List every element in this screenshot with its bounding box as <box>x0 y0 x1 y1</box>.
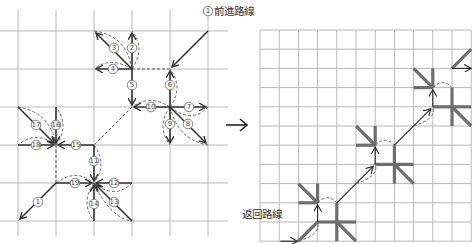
badge-8: 8 <box>183 119 193 129</box>
svg-text:2: 2 <box>130 44 134 52</box>
badge-7: 7 <box>184 102 194 112</box>
badge-9: 9 <box>165 119 175 129</box>
svg-text:14: 14 <box>90 200 99 208</box>
svg-text:10: 10 <box>147 103 156 111</box>
diagram-canvas: 1 2 3 4 5 6 7 8 9 10 11 12 13 14 15 16 1… <box>0 0 475 244</box>
svg-text:17: 17 <box>32 121 41 129</box>
badge-11: 11 <box>89 156 99 166</box>
return-route-label: 返回路線 <box>242 208 283 220</box>
badge-4: 4 <box>108 64 118 74</box>
badge-15: 15 <box>71 140 81 150</box>
badge-10: 10 <box>146 102 156 112</box>
svg-text:7: 7 <box>187 103 191 111</box>
svg-text:9: 9 <box>168 120 172 128</box>
svg-text:15: 15 <box>72 141 81 149</box>
svg-text:16: 16 <box>52 121 61 129</box>
svg-text:19: 19 <box>71 179 80 187</box>
badge-6: 6 <box>165 80 175 90</box>
svg-text:8: 8 <box>186 120 190 128</box>
badge-16: 16 <box>51 120 61 130</box>
svg-text:6: 6 <box>168 81 173 89</box>
badge-17: 17 <box>31 120 41 130</box>
svg-text:13: 13 <box>110 198 119 206</box>
badge-19: 19 <box>70 178 80 188</box>
svg-text:12: 12 <box>110 179 119 187</box>
right-return-route <box>280 68 471 241</box>
svg-text:4: 4 <box>111 65 116 73</box>
forward-route-label: 前進路線 <box>214 5 255 17</box>
step-1-arrow <box>172 31 208 67</box>
badge-12: 12 <box>109 178 119 188</box>
svg-text:1: 1 <box>36 198 40 206</box>
svg-text:5: 5 <box>130 81 134 89</box>
svg-text:1: 1 <box>206 7 210 15</box>
badge-end: 1 <box>33 197 43 207</box>
badge-13: 13 <box>109 197 119 207</box>
svg-text:11: 11 <box>90 157 99 165</box>
badge-2: 2 <box>127 43 137 53</box>
transition-arrow-icon <box>226 119 247 131</box>
badge-18: 18 <box>31 140 41 150</box>
badge-3: 3 <box>109 43 119 53</box>
badge-start: 1 <box>203 6 213 16</box>
badge-5: 5 <box>127 80 137 90</box>
svg-text:18: 18 <box>32 141 41 149</box>
svg-text:3: 3 <box>112 44 116 52</box>
badge-14: 14 <box>89 199 99 209</box>
